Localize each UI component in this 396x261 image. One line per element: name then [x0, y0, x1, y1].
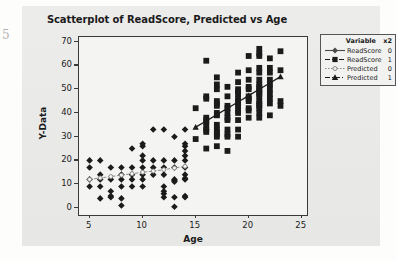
legend-group-value: 0 — [381, 65, 392, 73]
data-point — [182, 126, 189, 133]
chart-canvas: Scatterplot of ReadScore, Predicted vs A… — [22, 6, 380, 246]
legend-header-group: x2 — [382, 37, 392, 45]
plot-area — [79, 37, 307, 215]
legend-item-readscore-0[interactable]: ReadScore0 — [324, 46, 392, 55]
data-point — [246, 77, 252, 83]
data-point — [171, 194, 178, 201]
data-point — [256, 53, 262, 59]
data-point — [203, 58, 209, 64]
legend-label: ReadScore — [346, 47, 382, 55]
data-point — [235, 127, 241, 133]
legend-swatch-triangle-icon — [324, 73, 346, 82]
data-point — [161, 126, 168, 133]
data-point — [267, 70, 273, 76]
data-point — [214, 86, 220, 92]
data-point — [139, 176, 146, 183]
plot-frame — [78, 36, 308, 216]
data-point — [141, 170, 145, 174]
y-tick-label: 0 — [52, 202, 72, 212]
data-point — [97, 157, 104, 164]
page-margin-glyph: 5 — [2, 28, 11, 42]
data-point — [119, 173, 123, 177]
data-point — [278, 48, 284, 54]
data-point — [214, 74, 220, 80]
data-point — [246, 108, 252, 114]
y-tick-label: 50 — [52, 83, 72, 93]
legend-group-value: 1 — [381, 74, 392, 82]
data-point — [139, 157, 146, 164]
data-point — [246, 98, 252, 104]
chart-title: Scatterplot of ReadScore, Predicted vs A… — [22, 14, 312, 25]
data-point — [246, 86, 252, 92]
data-point — [118, 183, 125, 190]
data-point — [267, 101, 273, 107]
data-point — [235, 110, 241, 116]
data-point — [129, 164, 136, 171]
legend: Variable x2 ReadScore0ReadScore1Predicte… — [320, 34, 396, 86]
data-point — [129, 176, 136, 183]
legend-group-value: 1 — [382, 56, 392, 64]
legend-swatch-diamond-icon — [324, 46, 346, 55]
data-point — [278, 103, 284, 109]
data-point — [214, 103, 220, 109]
data-point — [235, 117, 241, 123]
data-point — [214, 134, 220, 140]
y-tick-label: 20 — [52, 154, 72, 164]
legend-item-predicted-0[interactable]: Predicted0 — [324, 64, 392, 73]
legend-group-value: 0 — [382, 47, 392, 55]
chart-panel: Scatterplot of ReadScore, Predicted vs A… — [22, 6, 380, 246]
data-point — [182, 176, 189, 183]
data-point — [193, 105, 199, 111]
data-point — [246, 115, 252, 121]
legend-label: Predicted — [346, 65, 381, 73]
data-point — [150, 157, 157, 164]
data-point — [151, 169, 155, 173]
legend-header-variable: Variable — [336, 37, 376, 45]
scanned-page-background: 5 Scatterplot of ReadScore, Predicted vs… — [0, 0, 396, 261]
legend-label: ReadScore — [346, 56, 382, 64]
data-point — [86, 183, 93, 190]
data-point — [203, 96, 209, 102]
data-point — [86, 164, 93, 171]
data-point — [235, 79, 241, 85]
y-tick-label: 40 — [52, 107, 72, 117]
data-point — [203, 129, 209, 135]
data-point — [193, 136, 199, 142]
data-point — [246, 53, 252, 59]
data-point — [235, 70, 241, 76]
data-point — [161, 194, 168, 201]
legend-label: Predicted — [346, 74, 381, 82]
data-point — [192, 124, 198, 130]
data-point — [182, 157, 189, 164]
data-point — [150, 126, 157, 133]
data-point — [225, 84, 231, 90]
data-point — [171, 203, 178, 210]
data-point — [171, 157, 178, 164]
data-point — [129, 183, 136, 190]
y-axis-label: Y-Data — [38, 93, 48, 153]
data-point — [225, 134, 231, 140]
data-point — [97, 195, 104, 202]
data-point — [225, 117, 231, 123]
data-point — [108, 194, 115, 201]
legend-swatch-square-icon — [324, 55, 346, 64]
data-point — [88, 177, 92, 181]
data-point — [172, 166, 176, 170]
data-point — [267, 112, 273, 118]
legend-item-readscore-1[interactable]: ReadScore1 — [324, 55, 392, 64]
data-point — [267, 55, 273, 61]
data-point — [225, 148, 231, 154]
legend-rows: ReadScore0ReadScore1Predicted0Predicted1 — [324, 46, 392, 82]
data-point — [139, 183, 146, 190]
legend-item-predicted-1[interactable]: Predicted1 — [324, 73, 392, 82]
data-point — [162, 168, 166, 172]
data-point — [129, 145, 136, 152]
data-point — [214, 143, 220, 149]
data-point — [118, 164, 125, 171]
data-point — [256, 115, 262, 121]
y-tick-label: 10 — [52, 178, 72, 188]
x-tick-label: 20 — [237, 220, 259, 230]
y-tick-label: 60 — [52, 59, 72, 69]
data-point — [98, 176, 102, 180]
y-tick-label: 70 — [52, 36, 72, 46]
